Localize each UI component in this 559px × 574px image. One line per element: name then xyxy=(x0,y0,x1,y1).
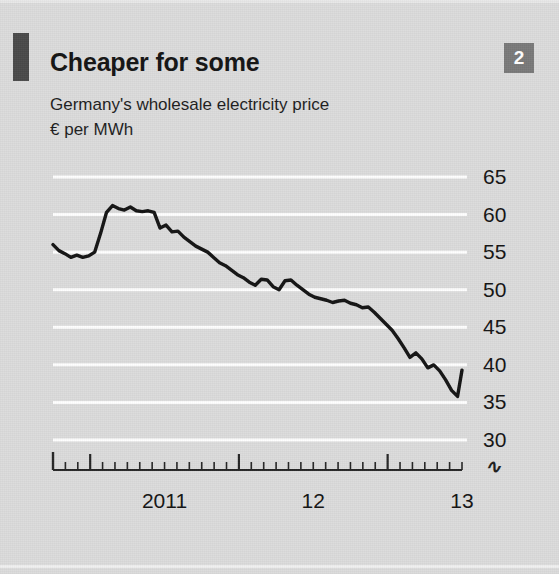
x-axis xyxy=(53,452,462,470)
x-axis-tick-label: 13 xyxy=(450,489,473,513)
price-line xyxy=(53,206,462,397)
y-axis-tick-label: 35 xyxy=(483,390,506,414)
gridlines xyxy=(53,177,467,440)
axis-break-icon: ∿ xyxy=(485,455,501,478)
y-axis-tick-label: 60 xyxy=(483,203,506,227)
y-axis-tick-label: 55 xyxy=(483,240,506,264)
y-axis-tick-label: 50 xyxy=(483,278,506,302)
line-chart-plot xyxy=(0,0,559,574)
y-axis-tick-label: 30 xyxy=(483,428,506,452)
y-axis-tick-label: 65 xyxy=(483,165,506,189)
y-axis-tick-label: 40 xyxy=(483,353,506,377)
x-axis-tick-label: 12 xyxy=(302,489,325,513)
x-axis-tick-label: 2011 xyxy=(142,489,187,513)
y-axis-tick-label: 45 xyxy=(483,315,506,339)
